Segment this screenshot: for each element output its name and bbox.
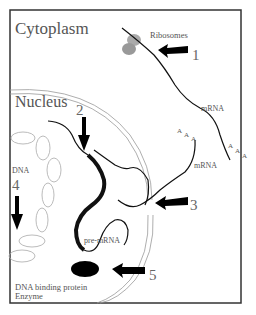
enzyme-label: Enzyme <box>15 291 43 301</box>
mrna-label-top: mRNA <box>201 104 224 113</box>
marker-5: 5 <box>149 267 157 283</box>
dna-binding-protein-icon <box>71 261 99 277</box>
marker-4: 4 <box>12 177 20 193</box>
dna-label: DNA <box>12 166 30 175</box>
svg-text:A: A <box>235 147 240 155</box>
marker-3: 3 <box>190 197 198 213</box>
gene-expression-diagram: Cytoplasm Nucleus Ribosomes mRNA AAA AAA… <box>0 0 256 315</box>
marker-2: 2 <box>76 102 84 118</box>
svg-text:A: A <box>177 127 182 135</box>
svg-text:A: A <box>228 142 233 150</box>
svg-text:A: A <box>184 131 189 139</box>
svg-text:A: A <box>242 152 247 160</box>
mrna-label-mid: mRNA <box>194 161 217 170</box>
cytoplasm-label: Cytoplasm <box>15 19 89 38</box>
ribosomes-label: Ribosomes <box>150 30 188 40</box>
nucleus-label: Nucleus <box>15 93 67 110</box>
marker-1: 1 <box>192 47 200 63</box>
svg-text:A: A <box>191 135 196 143</box>
pre-mrna-label: pre-mRNA <box>84 236 120 245</box>
